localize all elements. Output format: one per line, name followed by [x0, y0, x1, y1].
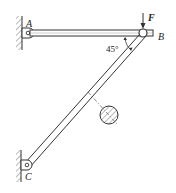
bar-bc	[25, 34, 146, 167]
circular-cross-section	[99, 105, 119, 125]
label-force: F	[147, 12, 155, 23]
label-a: A	[25, 18, 33, 29]
label-angle: 45°	[106, 44, 119, 54]
pin-b	[139, 29, 147, 37]
bar-ab	[30, 30, 153, 36]
wall-support-c	[16, 150, 21, 182]
label-b: B	[158, 31, 164, 42]
pin-c	[21, 160, 32, 170]
truss-diagram: F B A 45° C	[0, 0, 176, 193]
label-c: C	[25, 171, 32, 182]
force-arrow-f	[141, 13, 146, 29]
wall-support-a	[16, 16, 22, 50]
